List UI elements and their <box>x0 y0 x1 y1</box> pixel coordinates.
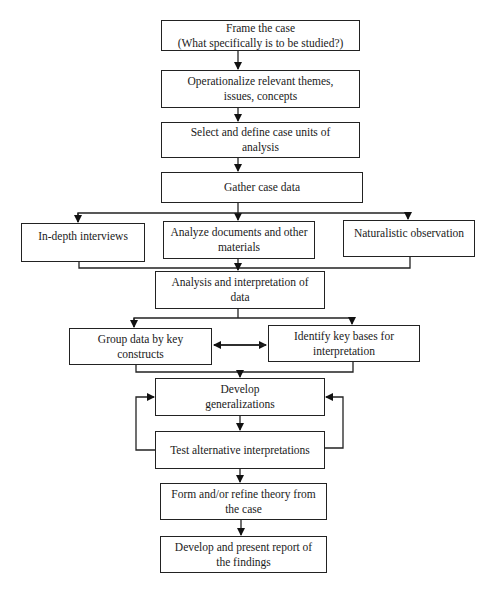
node-text: Frame the case <box>226 21 295 36</box>
node-develop-generalizations: Develop generalizations <box>155 378 325 416</box>
node-naturalistic-observation: Naturalistic observation <box>343 220 475 257</box>
node-text: Test alternative interpretations <box>170 443 310 458</box>
node-analysis-interpretation: Analysis and interpretation of data <box>155 271 325 309</box>
node-text: Analyze documents and other <box>171 225 308 240</box>
node-text: generalizations <box>205 397 275 412</box>
node-text: the findings <box>216 555 271 570</box>
node-text: the case <box>225 502 262 517</box>
node-analyze-documents: Analyze documents and other materials <box>163 221 315 259</box>
node-test-alternative: Test alternative interpretations <box>155 431 325 469</box>
node-text: materials <box>218 240 260 255</box>
node-text: Naturalistic observation <box>354 226 464 241</box>
node-text: Operationalize relevant themes, <box>188 74 334 89</box>
node-text: (What specifically is to be studied?) <box>178 36 344 51</box>
node-text: Select and define case units of <box>191 125 331 140</box>
node-text: Form and/or refine theory from <box>171 487 315 502</box>
node-form-refine-theory: Form and/or refine theory from the case <box>160 483 327 520</box>
node-frame-the-case: Frame the case (What specifically is to … <box>161 20 360 51</box>
node-text: Group data by key constructs <box>76 332 205 362</box>
node-text: In-depth interviews <box>38 229 128 244</box>
node-gather-case-data: Gather case data <box>161 172 363 203</box>
node-operationalize: Operationalize relevant themes, issues, … <box>161 70 360 108</box>
node-text: analysis <box>242 140 279 155</box>
node-text: issues, concepts <box>224 89 297 104</box>
node-text: Analysis and interpretation of data <box>162 275 318 305</box>
node-select-case-units: Select and define case units of analysis <box>161 122 360 158</box>
node-identify-key-bases: Identify key bases for interpretation <box>268 325 420 362</box>
node-text: interpretation <box>313 344 375 359</box>
node-text: Develop and present report of <box>175 540 312 555</box>
node-present-report: Develop and present report of the findin… <box>160 536 327 573</box>
node-text: Develop <box>221 382 260 397</box>
node-in-depth-interviews: In-depth interviews <box>21 223 145 262</box>
node-text: Identify key bases for <box>294 329 394 344</box>
node-group-data: Group data by key constructs <box>69 328 212 365</box>
node-text: Gather case data <box>224 180 300 195</box>
